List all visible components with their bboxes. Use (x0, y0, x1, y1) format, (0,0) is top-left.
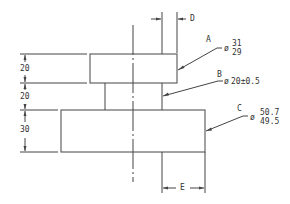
arrow-icon (24, 55, 27, 60)
arrow-icon (163, 187, 168, 190)
feature-label-b: B (217, 71, 222, 79)
feature-b-value: 20±0.5 (231, 78, 260, 86)
arrow-icon (199, 187, 204, 190)
diameter-symbol: ø (224, 45, 229, 53)
feature-label-a: A (206, 36, 211, 44)
diameter-symbol: ø (224, 78, 229, 86)
technical-drawing (0, 0, 290, 204)
arrow-icon (178, 66, 185, 71)
diameter-symbol: ø (250, 114, 255, 122)
feature-c-upper-limit: 50.7 (260, 109, 279, 117)
arrow-icon (156, 18, 161, 21)
arrow-icon (24, 77, 27, 82)
dim-label-d: D (190, 15, 195, 23)
leader-a (178, 48, 222, 70)
feature-a-lower-limit: 29 (232, 49, 242, 57)
leader-c (206, 116, 248, 131)
arrow-icon (206, 128, 212, 132)
arrow-icon (178, 18, 183, 21)
arrow-icon (24, 111, 27, 116)
dim-label-e: E (180, 184, 185, 192)
arrow-icon (24, 146, 27, 151)
arrow-icon (24, 104, 27, 109)
feature-a-upper-limit: 31 (232, 40, 242, 48)
arrow-icon (163, 93, 169, 97)
feature-c-lower-limit: 49.5 (260, 118, 279, 126)
dim-label-c-height: 30 (20, 126, 30, 134)
dim-label-b-height: 20 (20, 93, 30, 101)
dim-label-a-height: 20 (20, 65, 30, 73)
arrow-icon (24, 84, 27, 89)
feature-label-c: C (237, 105, 242, 113)
